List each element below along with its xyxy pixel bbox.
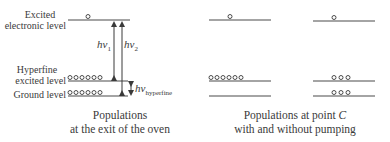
point-c-caption: Populations at point C with and without … <box>215 108 375 136</box>
hyperfine-level-label: Hyperfine excited level <box>2 64 66 86</box>
hv1-label: hν1 <box>97 39 111 55</box>
unpumped-atoms <box>332 16 350 95</box>
pumped-atoms <box>209 15 243 80</box>
excited-level-label: Excited electronic level <box>4 9 66 31</box>
ground-level-label: Ground level <box>2 89 66 100</box>
hv-hyperfine-label: hνhyperfine <box>135 83 172 99</box>
hv2-label: hν2 <box>124 39 138 55</box>
oven-caption: Populations at the exit of the oven <box>40 108 200 136</box>
